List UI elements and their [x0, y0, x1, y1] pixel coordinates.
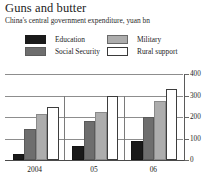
y-axis-tick — [185, 139, 189, 140]
legend-swatch-icon — [107, 47, 128, 56]
legend-item-rural-support: Rural support — [107, 41, 177, 51]
page-title: Guns and butter — [5, 1, 86, 16]
x-axis-tick-label: 05 — [64, 165, 123, 174]
legend-item-education: Education — [25, 29, 85, 39]
chart-plot-area: 0100200300400 — [5, 60, 183, 161]
gridline — [5, 74, 183, 75]
y-axis-tick-label: 400 — [190, 70, 201, 78]
x-axis-tick-label: 06 — [124, 165, 183, 174]
bar-military-2004 — [36, 114, 48, 160]
group-separator — [64, 96, 65, 161]
y-axis-tick — [185, 160, 189, 161]
chart-legend: Education Social Security Military Rural… — [25, 29, 205, 54]
bar-military-05 — [95, 112, 107, 160]
y-axis-tick-label: 200 — [190, 113, 201, 121]
y-axis-tick-label: 0 — [190, 156, 194, 164]
legend-swatch-icon — [25, 47, 46, 56]
group-separator — [124, 96, 125, 161]
y-axis-tick-label: 100 — [190, 135, 201, 143]
bar-social-security-06 — [143, 117, 155, 160]
bar-social-security-2004 — [24, 129, 36, 160]
legend-item-social-security: Social Security — [25, 41, 100, 51]
bar-rural-support-05 — [107, 96, 119, 161]
bar-education-06 — [131, 141, 143, 160]
x-axis-tick-label: 2004 — [5, 165, 64, 174]
legend-item-label: Rural support — [137, 47, 177, 56]
x-axis-baseline — [5, 160, 186, 161]
y-axis-tick — [185, 117, 189, 118]
bar-military-06 — [154, 101, 166, 160]
bar-education-2004 — [13, 154, 25, 161]
bar-rural-support-06 — [166, 89, 178, 160]
bar-rural-support-2004 — [47, 107, 59, 160]
bar-education-05 — [72, 146, 84, 160]
y-axis-tick-label: 300 — [190, 92, 201, 100]
y-axis-tick — [185, 74, 189, 75]
y-axis-tick — [185, 96, 189, 97]
bar-social-security-05 — [84, 121, 96, 160]
gridline — [5, 96, 183, 97]
legend-item-label: Social Security — [55, 47, 100, 56]
chart-page: Guns and butter China's central governme… — [0, 0, 216, 179]
chart-subtitle: China's central government expenditure, … — [5, 16, 150, 25]
legend-item-military: Military — [107, 29, 161, 39]
